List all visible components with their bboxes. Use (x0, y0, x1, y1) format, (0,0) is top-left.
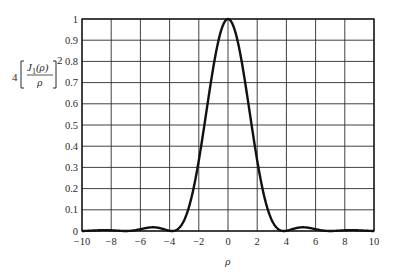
y-tick-label: 0.7 (65, 77, 78, 88)
grid-lines (82, 19, 374, 231)
y-tick-label: 0.3 (65, 162, 78, 173)
y-tick-label: 0.8 (65, 56, 78, 67)
x-tick-label: 0 (225, 236, 230, 247)
y-label-power: 2 (57, 54, 63, 66)
x-tick-label: −10 (74, 236, 90, 247)
y-tick-label: 0.2 (65, 183, 78, 194)
x-tick-label: −2 (193, 236, 204, 247)
y-tick-label: 1 (73, 14, 78, 25)
x-tick-label: −4 (164, 236, 176, 247)
x-tick-label: 6 (313, 236, 318, 247)
y-tick-label: 0.4 (65, 141, 79, 152)
y-tick-label: 0.9 (65, 35, 78, 46)
left-bracket (21, 61, 24, 88)
y-tick-label: 0.1 (65, 204, 78, 215)
y-tick-label: 0.5 (65, 120, 78, 131)
x-tick-label: 2 (255, 236, 260, 247)
x-tick-label: 8 (342, 236, 347, 247)
y-tick-label: 0.6 (65, 98, 78, 109)
y-tick-label: 0 (73, 226, 78, 237)
x-axis-label: ρ (224, 255, 230, 267)
y-label-denominator: ρ (36, 76, 42, 88)
right-bracket (53, 61, 56, 88)
y-label-coef: 4 (12, 71, 18, 83)
y-axis-label: 4 J1(ρ) ρ 2 (12, 54, 63, 88)
x-tick-label: −6 (135, 236, 146, 247)
y-tick-labels: 00.10.20.30.40.50.60.70.80.91 (65, 14, 79, 237)
x-tick-label: −8 (106, 236, 117, 247)
x-tick-label: 10 (369, 236, 380, 247)
chart: −10−8−6−4−20246810 00.10.20.30.40.50.60.… (0, 0, 393, 278)
x-tick-label: 4 (284, 236, 290, 247)
y-label-numerator: J1(ρ) (27, 61, 49, 76)
x-tick-labels: −10−8−6−4−20246810 (74, 236, 379, 247)
